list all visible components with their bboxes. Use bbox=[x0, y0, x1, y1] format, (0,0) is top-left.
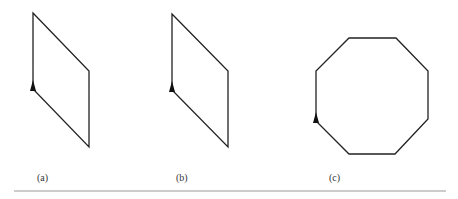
figure-label-b: (b) bbox=[176, 172, 188, 183]
parallelogram-a bbox=[33, 13, 89, 147]
diagram-canvas bbox=[0, 0, 458, 199]
arrow-icon-a bbox=[30, 80, 36, 91]
octagon-c bbox=[316, 38, 428, 154]
figure-label-c: (c) bbox=[329, 172, 340, 183]
parallelogram-b bbox=[172, 14, 228, 147]
figure-label-a: (a) bbox=[37, 172, 48, 183]
arrow-icon-c bbox=[313, 112, 319, 123]
arrow-icon-b bbox=[169, 81, 175, 92]
